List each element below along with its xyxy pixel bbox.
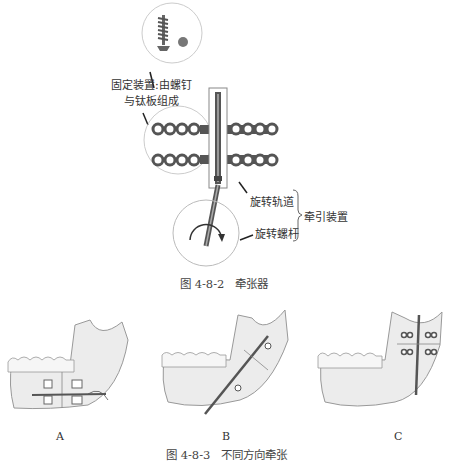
distractor-diagram (0, 0, 457, 300)
panel-label-b: B (222, 430, 230, 443)
mandible-panel-a (8, 320, 128, 409)
mandible-panel-c (318, 312, 442, 406)
rotation-track-label: 旋转轨道 (250, 193, 294, 209)
screw-icon (157, 15, 170, 51)
distractor-rod-c (416, 315, 419, 395)
figure-caption-bottom: 图 4-8-3 不同方向牵张 (166, 446, 287, 462)
rotation-screw-label: 旋转螺杆 (255, 225, 299, 241)
figure-caption-top: 图 4-8-2 牵张器 (180, 275, 268, 291)
rotation-detail-circle (173, 200, 239, 266)
panel-label-a: A (56, 430, 64, 443)
fixing-device-label-1: 固定装置:由螺钉 (111, 76, 192, 92)
fixing-device-label-2: 与钛板组成 (124, 92, 179, 108)
mandible-panel-b (162, 310, 288, 414)
screw-detail-circle (142, 3, 202, 63)
distractor-rod-b (205, 336, 268, 414)
panel-label-c: C (394, 430, 402, 443)
screw-head-icon (178, 37, 188, 47)
traction-device-label: 牵引装置 (304, 208, 348, 224)
